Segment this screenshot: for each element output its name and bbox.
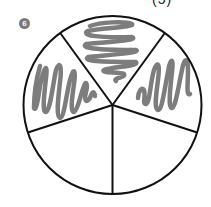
scribble-upper-right-slice xyxy=(138,60,190,110)
fraction-circle xyxy=(0,0,211,207)
scribble-top-slice xyxy=(85,22,137,81)
slice-dividers xyxy=(28,33,197,194)
scribble-upper-left-slice xyxy=(34,65,95,118)
